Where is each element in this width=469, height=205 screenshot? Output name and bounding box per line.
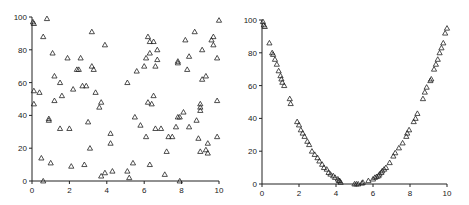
triangle-marker	[205, 141, 210, 146]
triangle-marker	[39, 155, 44, 160]
x-tick-label: 2	[67, 186, 72, 195]
triangle-marker	[44, 16, 49, 21]
y-tick-label: 40	[248, 114, 257, 123]
x-tick-label: 2	[297, 189, 302, 198]
triangle-marker	[110, 169, 115, 174]
triangle-marker	[278, 73, 283, 78]
triangle-marker	[158, 126, 163, 131]
triangle-marker	[441, 40, 446, 45]
triangle-marker	[151, 93, 156, 98]
x-tick-label: 10	[215, 186, 224, 195]
y-tick-label: 0	[23, 177, 28, 186]
x-tick-label: 6	[371, 189, 376, 198]
triangle-marker	[203, 73, 208, 78]
triangle-marker	[91, 67, 96, 72]
triangle-marker	[366, 178, 371, 183]
triangle-marker	[67, 126, 72, 131]
scatter-plot-right: 0246810020406080100	[244, 16, 452, 198]
triangle-marker	[444, 26, 449, 31]
triangle-marker	[413, 116, 418, 121]
triangle-marker	[279, 76, 284, 81]
x-tick-label: 4	[105, 186, 110, 195]
triangle-marker	[145, 34, 150, 39]
triangle-marker	[196, 136, 201, 141]
triangle-marker	[424, 85, 429, 90]
triangle-marker	[86, 119, 91, 124]
triangle-marker	[420, 96, 425, 101]
x-tick-label: 8	[179, 186, 184, 195]
triangle-marker	[125, 80, 130, 85]
triangle-marker	[400, 140, 405, 145]
x-tick-label: 0	[30, 186, 35, 195]
triangle-marker	[147, 50, 152, 55]
triangle-marker	[317, 158, 322, 163]
triangle-marker	[205, 151, 210, 156]
triangle-marker	[162, 172, 167, 177]
triangle-marker	[192, 29, 197, 34]
triangle-marker	[309, 149, 314, 154]
triangle-marker	[57, 126, 62, 131]
x-tick-label: 0	[260, 189, 265, 198]
triangle-marker	[138, 123, 143, 128]
triangle-marker	[41, 34, 46, 39]
y-tick-label: 60	[18, 79, 27, 88]
triangle-marker	[65, 55, 70, 60]
triangle-marker	[84, 83, 89, 88]
triangle-marker	[147, 162, 152, 167]
triangle-marker	[406, 127, 411, 132]
x-tick-label: 6	[142, 186, 147, 195]
y-tick-label: 20	[18, 144, 27, 153]
scatter-plot-left: 0246810020406080100	[14, 13, 224, 195]
triangle-marker	[153, 126, 158, 131]
triangle-marker	[287, 96, 292, 101]
triangle-marker	[145, 100, 150, 105]
x-tick-label: 4	[334, 189, 339, 198]
figure: 0246810020406080100 0246810020406080100	[0, 0, 469, 205]
triangle-marker	[127, 175, 132, 180]
triangle-marker	[130, 160, 135, 165]
triangle-marker	[288, 101, 293, 106]
triangle-marker	[215, 98, 220, 103]
triangle-marker	[102, 170, 107, 175]
triangle-marker	[155, 47, 160, 52]
triangle-marker	[125, 169, 130, 174]
triangle-marker	[415, 111, 420, 116]
triangle-marker	[272, 57, 277, 62]
triangle-marker	[134, 69, 139, 74]
triangle-marker	[185, 67, 190, 72]
triangle-marker	[215, 134, 220, 139]
triangle-marker	[282, 83, 287, 88]
triangle-marker	[93, 90, 98, 95]
triangle-marker	[183, 37, 188, 42]
triangle-marker	[108, 131, 113, 136]
y-tick-label: 40	[18, 111, 27, 120]
triangle-marker	[186, 124, 191, 129]
triangle-marker	[194, 118, 199, 123]
triangle-marker	[142, 64, 147, 69]
triangle-marker	[387, 160, 392, 165]
triangle-marker	[267, 40, 272, 45]
triangle-marker	[82, 162, 87, 167]
triangle-marker	[78, 55, 83, 60]
y-tick-label: 100	[14, 13, 28, 22]
triangle-marker	[439, 45, 444, 50]
y-tick-label: 80	[248, 49, 257, 58]
y-tick-label: 80	[18, 46, 27, 55]
triangle-marker	[215, 55, 220, 60]
triangle-marker	[102, 42, 107, 47]
triangle-marker	[211, 42, 216, 47]
x-tick-label: 8	[408, 189, 413, 198]
triangle-marker	[296, 122, 301, 127]
triangle-marker	[393, 150, 398, 155]
triangle-marker	[396, 145, 401, 150]
triangle-marker	[164, 149, 169, 154]
triangle-marker	[71, 87, 76, 92]
triangle-marker	[302, 134, 307, 139]
triangle-marker	[307, 142, 312, 147]
triangle-marker	[108, 141, 113, 146]
triangle-marker	[404, 134, 409, 139]
triangle-marker	[37, 90, 42, 95]
triangle-marker	[276, 68, 281, 73]
triangle-marker	[422, 90, 427, 95]
triangle-marker	[198, 149, 203, 154]
